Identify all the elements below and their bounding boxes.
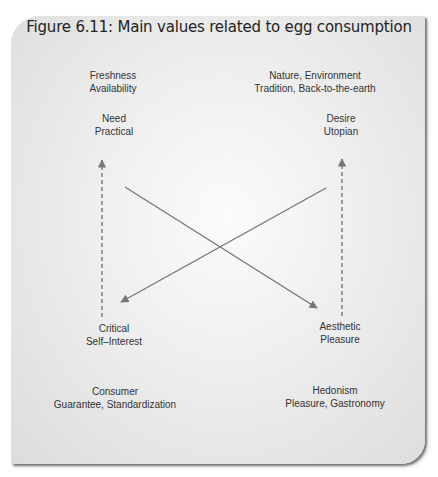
value-pleasure-gastronomy: Pleasure, Gastronomy: [285, 397, 385, 410]
node-aesthetic: Aesthetic: [319, 320, 360, 333]
node-desire-utopian: Desire Utopian: [324, 112, 358, 138]
value-tradition: Tradition, Back-to-the-earth: [254, 82, 375, 95]
solid-arrow-need-to-aesthetic: [125, 187, 317, 308]
node-practical: Practical: [95, 125, 133, 138]
top-left-values: Freshness Availability: [89, 69, 136, 95]
value-hedonism: Hedonism: [285, 384, 385, 397]
node-need: Need: [95, 112, 133, 125]
value-nature-environment: Nature, Environment: [254, 69, 375, 82]
node-critical-self-interest: Critical Self–Interest: [86, 322, 142, 348]
node-desire: Desire: [324, 112, 358, 125]
bottom-left-values: Consumer Guarantee, Standardization: [54, 385, 176, 411]
node-self-interest: Self–Interest: [86, 335, 142, 348]
top-right-values: Nature, Environment Tradition, Back-to-t…: [254, 69, 375, 95]
value-consumer: Consumer: [54, 385, 176, 398]
node-critical: Critical: [86, 322, 142, 335]
node-aesthetic-pleasure: Aesthetic Pleasure: [319, 320, 360, 346]
node-need-practical: Need Practical: [95, 112, 133, 138]
node-utopian: Utopian: [324, 125, 358, 138]
value-guarantee-standardization: Guarantee, Standardization: [54, 398, 176, 411]
node-pleasure: Pleasure: [319, 333, 360, 346]
value-availability: Availability: [89, 82, 136, 95]
solid-arrow-desire-to-critical: [121, 188, 326, 302]
bottom-right-values: Hedonism Pleasure, Gastronomy: [285, 384, 385, 410]
value-freshness: Freshness: [89, 69, 136, 82]
